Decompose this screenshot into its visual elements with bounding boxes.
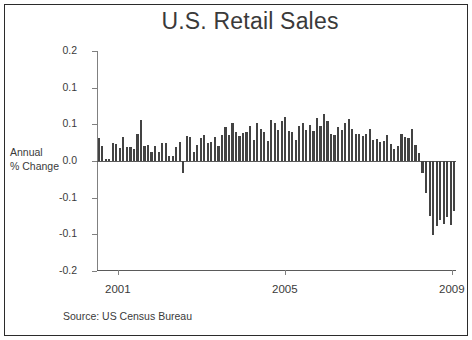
bar <box>98 138 100 161</box>
bar <box>429 161 431 216</box>
bar <box>161 143 163 161</box>
x-tick-label: 2005 <box>272 283 298 295</box>
bar <box>319 126 321 161</box>
bar <box>200 138 202 161</box>
bar <box>249 126 251 161</box>
bar <box>224 127 226 161</box>
bar <box>172 156 174 162</box>
bar <box>277 130 279 161</box>
bar <box>341 130 343 161</box>
bar <box>182 161 184 173</box>
bar <box>179 142 181 161</box>
bar <box>256 123 258 161</box>
bar <box>372 140 374 161</box>
zero-baseline <box>97 161 456 162</box>
bar <box>344 123 346 162</box>
bar <box>291 132 293 161</box>
bar <box>122 137 124 161</box>
x-tick-mark <box>452 270 453 275</box>
bar <box>203 135 205 161</box>
bar <box>386 135 388 161</box>
x-axis-line <box>97 270 456 271</box>
bar <box>210 142 212 161</box>
bar <box>383 141 385 161</box>
bar <box>165 143 167 161</box>
bar <box>228 135 230 161</box>
bar <box>323 114 325 161</box>
bar <box>365 134 367 161</box>
bar <box>235 132 237 161</box>
bar <box>267 141 269 161</box>
bar <box>196 145 198 161</box>
bar <box>400 134 402 162</box>
bar <box>453 161 455 211</box>
y-tick-mark <box>92 51 97 52</box>
bar <box>379 142 381 161</box>
bar <box>411 129 413 161</box>
bar <box>263 132 265 161</box>
bar <box>425 161 427 193</box>
bar <box>154 146 156 161</box>
bar <box>126 147 128 161</box>
bar <box>133 149 135 161</box>
bar <box>421 161 423 173</box>
bar <box>330 134 332 162</box>
bar <box>245 132 247 161</box>
y-tick-label: 0.1 <box>41 117 77 129</box>
bar <box>337 127 339 161</box>
x-tick-label: 2009 <box>439 283 465 295</box>
bar <box>175 147 177 161</box>
bar <box>316 118 318 161</box>
x-tick-mark <box>118 270 119 275</box>
bar <box>150 152 152 161</box>
bar <box>309 125 311 161</box>
bar <box>140 120 142 161</box>
bar <box>270 120 272 161</box>
bar <box>351 129 353 161</box>
bar <box>186 136 188 161</box>
bar <box>397 146 399 161</box>
bar <box>407 138 409 161</box>
bar <box>446 161 448 217</box>
bar <box>129 147 131 161</box>
bar <box>362 136 364 161</box>
bar <box>302 123 304 161</box>
bar <box>207 143 209 161</box>
bar <box>369 129 371 161</box>
bar <box>298 126 300 161</box>
y-tick-label: 0.0 <box>41 154 77 166</box>
bar <box>217 146 219 161</box>
bar <box>326 121 328 161</box>
bar <box>101 146 103 161</box>
bar <box>288 131 290 161</box>
y-tick-label: 0.2 <box>41 44 77 56</box>
bar <box>284 117 286 161</box>
bar <box>432 161 434 235</box>
source-note: Source: US Census Bureau <box>63 310 192 322</box>
bar <box>189 137 191 161</box>
bar <box>312 131 314 161</box>
bar <box>108 159 110 161</box>
bar <box>348 119 350 161</box>
y-tick-mark <box>92 271 97 272</box>
bar <box>221 135 223 161</box>
bar <box>376 139 378 161</box>
bar <box>450 161 452 225</box>
bar <box>404 137 406 161</box>
y-tick-mark <box>92 198 97 199</box>
y-tick-mark <box>92 234 97 235</box>
bar <box>147 145 149 161</box>
chart-figure: U.S. Retail Sales Annual % Change 0.20.1… <box>0 0 472 340</box>
bar <box>193 152 195 161</box>
bar <box>260 129 262 161</box>
bar <box>253 140 255 161</box>
bar <box>143 146 145 161</box>
y-tick-label: -0.1 <box>41 227 77 239</box>
bar <box>439 161 441 220</box>
bar <box>436 161 438 226</box>
x-tick-mark <box>285 270 286 275</box>
bar <box>112 143 114 161</box>
bar <box>281 121 283 161</box>
bar <box>231 123 233 161</box>
bar <box>443 161 445 224</box>
